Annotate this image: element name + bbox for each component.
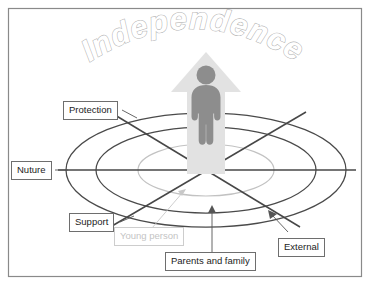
page-title: Independence — [78, 8, 308, 70]
independence-diagram: Independence Protection Nuture Support Y… — [0, 0, 370, 285]
label-protection[interactable]: Protection — [63, 101, 118, 120]
label-support[interactable]: Support — [69, 213, 114, 232]
label-nuture[interactable]: Nuture — [11, 161, 52, 180]
leader-parents-and-family — [208, 205, 216, 252]
label-parents-and-family[interactable]: Parents and family — [165, 252, 256, 271]
label-external[interactable]: External — [278, 238, 325, 257]
leader-protection — [122, 110, 137, 118]
page-title-text: Independence — [78, 8, 308, 68]
label-young-person[interactable]: Young person — [114, 227, 184, 246]
